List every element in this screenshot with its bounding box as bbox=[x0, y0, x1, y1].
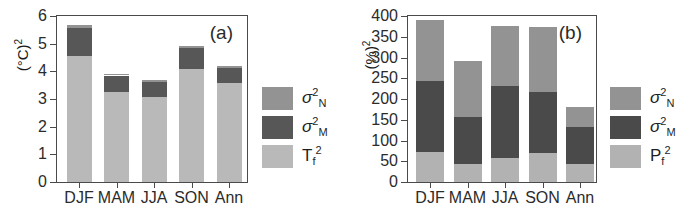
y-axis-tick-label: 200 bbox=[371, 91, 398, 107]
y-axis-tick bbox=[50, 71, 57, 72]
stacked-bar bbox=[179, 46, 204, 182]
bar-segment bbox=[491, 158, 519, 182]
stacked-bar bbox=[67, 25, 92, 182]
bar-segment bbox=[217, 66, 242, 68]
panel-b-tag: (b) bbox=[559, 22, 582, 44]
legend-item: Pf2 bbox=[610, 145, 676, 168]
y-axis-tick-label: 350 bbox=[371, 29, 398, 45]
y-axis-tick-label: 0 bbox=[38, 174, 47, 190]
legend-swatch bbox=[610, 116, 641, 139]
panel-a-plot-area: (a) 0123456DJFMAMJJASONAnn bbox=[56, 15, 248, 183]
x-axis-tick bbox=[79, 182, 80, 188]
bar-segment bbox=[104, 74, 129, 76]
stacked-bar bbox=[217, 66, 242, 182]
bar-segment bbox=[529, 153, 557, 182]
y-axis-tick bbox=[401, 141, 408, 142]
x-axis-tick-label: Ann bbox=[215, 190, 243, 206]
bar-segment bbox=[416, 20, 444, 81]
legend-item: Tf2 bbox=[262, 145, 328, 168]
bar-segment bbox=[416, 152, 444, 182]
stacked-bar bbox=[416, 20, 444, 182]
legend-swatch bbox=[610, 87, 641, 110]
y-axis-tick bbox=[401, 120, 408, 121]
panel-a-y-axis-label-text: (°C) bbox=[14, 44, 31, 71]
legend-swatch bbox=[262, 145, 293, 168]
panel-a-legend: σ2Nσ2MTf2 bbox=[262, 87, 328, 168]
stacked-bar-figure: (°C)2 (a) 0123456DJFMAMJJASONAnn σ2Nσ2MT… bbox=[0, 0, 696, 218]
y-axis-tick bbox=[50, 154, 57, 155]
y-axis-tick bbox=[50, 16, 57, 17]
y-axis-tick-label: 2 bbox=[38, 119, 47, 135]
legend-item: σ2M bbox=[610, 116, 676, 139]
y-axis-tick bbox=[401, 78, 408, 79]
bar-segment bbox=[142, 82, 167, 97]
y-axis-tick bbox=[50, 44, 57, 45]
legend-label: Tf2 bbox=[302, 145, 322, 167]
stacked-bar bbox=[104, 74, 129, 182]
bar-segment bbox=[67, 28, 92, 56]
x-axis-tick-label: JJA bbox=[141, 190, 168, 206]
y-axis-tick-label: 3 bbox=[38, 91, 47, 107]
x-axis-tick-label: DJF bbox=[64, 190, 93, 206]
panel-a-tag: (a) bbox=[210, 22, 233, 44]
y-axis-tick-label: 50 bbox=[380, 153, 398, 169]
x-axis-tick bbox=[505, 182, 506, 188]
legend-swatch bbox=[262, 87, 293, 110]
bar-segment bbox=[454, 117, 482, 164]
x-axis-tick-label: MAM bbox=[98, 190, 135, 206]
bar-segment bbox=[67, 56, 92, 182]
bar-segment bbox=[104, 76, 129, 93]
x-axis-tick-label: JJA bbox=[492, 190, 519, 206]
x-axis-tick-label: MAM bbox=[449, 190, 486, 206]
panel-b-plot-area: (b) 050100150200250300350400DJFMAMJJASON… bbox=[407, 15, 597, 183]
stacked-bar bbox=[566, 107, 594, 182]
legend-label: Pf2 bbox=[650, 145, 671, 167]
y-axis-tick bbox=[401, 37, 408, 38]
panel-a-y-axis-label: (°C)2 bbox=[13, 15, 31, 95]
legend-item: σ2N bbox=[262, 87, 328, 110]
legend-label: σ2N bbox=[302, 87, 326, 109]
x-axis-tick-label: SON bbox=[174, 190, 209, 206]
legend-label: σ2M bbox=[650, 116, 676, 138]
y-axis-tick-label: 0 bbox=[389, 174, 398, 190]
bar-segment bbox=[566, 107, 594, 127]
panel-b: (%)2 (b) 050100150200250300350400DJFMAMJ… bbox=[348, 0, 696, 218]
bar-segment bbox=[179, 48, 204, 69]
y-axis-tick-label: 150 bbox=[371, 112, 398, 128]
bar-segment bbox=[454, 61, 482, 117]
bar-segment bbox=[529, 92, 557, 153]
y-axis-tick bbox=[50, 99, 57, 100]
y-axis-tick-label: 4 bbox=[38, 63, 47, 79]
bar-segment bbox=[217, 68, 242, 83]
bar-segment bbox=[454, 164, 482, 182]
stacked-bar bbox=[142, 80, 167, 182]
y-axis-tick bbox=[50, 127, 57, 128]
bar-segment bbox=[529, 27, 557, 92]
bar-segment bbox=[67, 25, 92, 28]
y-axis-tick-label: 400 bbox=[371, 8, 398, 24]
stacked-bar bbox=[454, 61, 482, 182]
x-axis-tick bbox=[229, 182, 230, 188]
stacked-bar bbox=[491, 26, 519, 182]
bar-segment bbox=[217, 83, 242, 182]
x-axis-tick bbox=[192, 182, 193, 188]
bar-segment bbox=[491, 86, 519, 157]
x-axis-tick bbox=[154, 182, 155, 188]
panel-b-legend: σ2Nσ2MPf2 bbox=[610, 87, 676, 168]
x-axis-tick bbox=[580, 182, 581, 188]
panel-a-y-axis-label-exponent: 2 bbox=[13, 39, 24, 45]
legend-item: σ2N bbox=[610, 87, 676, 110]
y-axis-tick-label: 250 bbox=[371, 70, 398, 86]
bar-segment bbox=[179, 69, 204, 182]
legend-swatch bbox=[262, 116, 293, 139]
x-axis-tick bbox=[543, 182, 544, 188]
bar-segment bbox=[566, 127, 594, 164]
bar-segment bbox=[179, 46, 204, 48]
legend-label: σ2N bbox=[650, 87, 674, 109]
y-axis-tick bbox=[401, 161, 408, 162]
bar-segment bbox=[491, 26, 519, 86]
y-axis-tick-label: 300 bbox=[371, 50, 398, 66]
y-axis-tick-label: 6 bbox=[38, 8, 47, 24]
x-axis-tick bbox=[468, 182, 469, 188]
y-axis-tick bbox=[401, 16, 408, 17]
